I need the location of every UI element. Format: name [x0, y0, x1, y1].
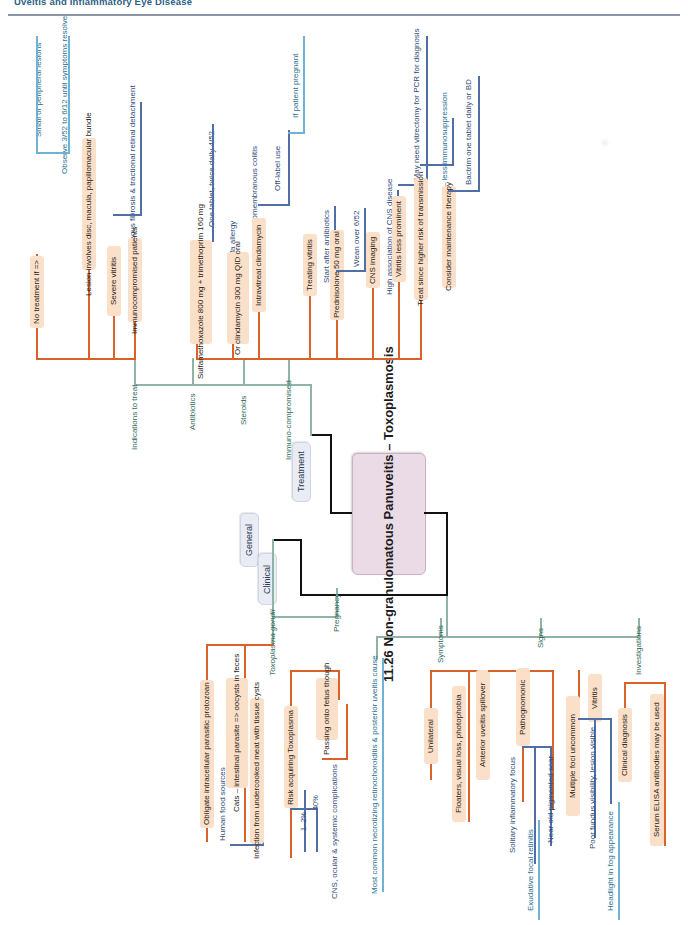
- leaf-cns-imaging[interactable]: CNS imaging: [366, 232, 380, 288]
- group-pregnancy[interactable]: Pregnancy: [328, 588, 346, 638]
- gondii-rail: [206, 644, 274, 646]
- leaf-headlight-in-fog[interactable]: Headlight in fog appearance: [604, 802, 618, 920]
- leaf-prednisolone[interactable]: Prednisolone 50 mg oral: [330, 230, 344, 320]
- group-antibiotics[interactable]: Antibiotics: [184, 391, 202, 433]
- leaf-bactrim[interactable]: Bactrim one tablet daily or BD: [462, 76, 476, 188]
- group-investigations[interactable]: Investigations: [630, 620, 648, 682]
- leaf-off-label-use[interactable]: Off-label use: [271, 132, 285, 204]
- central-node[interactable]: 11.26 Non-granulomatous Panuveitis – Tox…: [352, 453, 426, 575]
- leaf-immunocompromised-patients[interactable]: Immunocompromised patients: [128, 238, 142, 322]
- leaf-risk-acquiring-toxoplasma[interactable]: Risk acquiring Toxoplasma: [284, 706, 298, 808]
- antibiotics-blue-stem: [212, 124, 214, 242]
- intravitreal-stem-1: [288, 130, 290, 206]
- treatment-spine: [310, 384, 312, 436]
- trunk-general-stub: [300, 539, 302, 595]
- severe-vitritis-rail: [113, 214, 140, 216]
- group-immunocompromised[interactable]: Immuno-compromised: [280, 391, 298, 449]
- exudative-underline: [538, 820, 540, 920]
- investigations-rail: [624, 682, 664, 684]
- leaf-obligate-protozoan[interactable]: Obligate intracellular parasitic protozo…: [200, 680, 214, 828]
- intro-underline: [382, 658, 384, 892]
- leaf-severe-vitritis[interactable]: Severe vitritis: [107, 246, 121, 316]
- prednisolone-rail: [336, 270, 364, 272]
- fetus-stem: [346, 704, 348, 760]
- branch-treatment[interactable]: Treatment: [292, 442, 311, 502]
- intravitreal-rail: [258, 204, 288, 206]
- group-signs[interactable]: Signs: [532, 620, 550, 656]
- leaf-observe-until-resolve[interactable]: Observe 3/52 to 6/12 until symptoms reso…: [54, 36, 76, 154]
- leaf-pathognomonic[interactable]: Pathognomonic: [516, 668, 530, 746]
- indications-blue-rail: [36, 152, 68, 154]
- leaf-unilateral[interactable]: Unilateral: [424, 708, 438, 764]
- leaf-intravitreal-clindamycin[interactable]: Intravitreal clindamycin: [252, 218, 266, 312]
- leaf-consider-maintenance[interactable]: Consider maintenance therapy: [442, 186, 456, 288]
- trunk-up: [330, 434, 332, 514]
- leaf-cats-oocysts[interactable]: Cats – intestinal parasite => oocysts in…: [226, 678, 248, 788]
- indications-blue-stem-a: [36, 36, 38, 154]
- leaf-vitritis[interactable]: Vitritis: [588, 674, 602, 722]
- stem-indications: [134, 358, 136, 386]
- mindmap-page: Uveitis and Inflammatory Eye Disease 11.…: [0, 0, 688, 925]
- trunk-down-arm: [300, 594, 448, 596]
- investigations-stem-2: [664, 682, 666, 846]
- leaf-near-old-pigmented-scar[interactable]: Near old pigmented scar: [544, 746, 558, 852]
- leaf-no-treatment-if[interactable]: No treatment if =>: [30, 256, 44, 328]
- fetus-rail: [322, 758, 346, 760]
- mindmap-canvas: 11.26 Non-granulomatous Panuveitis – Tox…: [0, 18, 688, 925]
- headlight-underline: [618, 802, 620, 920]
- leaf-treating-vitritis[interactable]: Treating vitritis: [303, 234, 317, 296]
- trunk-left: [330, 512, 352, 514]
- indications-blue-stem-b: [68, 36, 70, 154]
- leaf-passing-onto-fetus[interactable]: Passing onto fetus though: [316, 678, 338, 740]
- leaf-cns-ocular-systemic[interactable]: CNS, ocular & systemic complications: [328, 770, 342, 894]
- leaf-clinical-diagnosis[interactable]: Clinical diagnosis: [618, 708, 632, 782]
- immuno-rail: [292, 358, 420, 360]
- symptoms-rail: [430, 670, 482, 672]
- bactrim-rail: [448, 190, 478, 192]
- leaf-solitary-inflammatory-focus[interactable]: Solitary inflammatory focus: [506, 748, 520, 862]
- leaf-may-need-vitrectomy[interactable]: => May need vitrectomy for PCR for diagn…: [410, 36, 424, 184]
- leaf-wean-over[interactable]: Wean over 6/52: [350, 208, 364, 270]
- pregnancy-stem-2: [338, 670, 340, 700]
- leaf-undercooked-meat[interactable]: Infection from undercooked meat with tis…: [250, 698, 264, 844]
- group-steroids[interactable]: Steroids: [235, 391, 253, 429]
- leaf-floaters-visual-loss[interactable]: Floaters, visual loss, photophobia: [452, 686, 466, 822]
- leaf-treat-higher-risk[interactable]: Treat since higher risk of transmission: [414, 178, 428, 300]
- header-rule: [8, 14, 680, 16]
- group-indications-to-treat[interactable]: Indications to treat: [126, 391, 144, 443]
- decorative-sheen: [600, 138, 610, 148]
- leaf-most-common-cause[interactable]: Most common necrotizing retinochoroiditi…: [368, 658, 382, 892]
- trunk-right: [424, 512, 446, 514]
- leaf-if-patient-pregnant[interactable]: If patient pregnant: [289, 36, 303, 136]
- leaf-vitritis-less-prominent[interactable]: Vitritis less prominent: [392, 196, 406, 282]
- running-header: Uveitis and Inflammatory Eye Disease: [14, 0, 192, 7]
- leaf-exudative-focal-retinitis[interactable]: Exudative focal retinitis: [524, 820, 538, 920]
- bactrim-stem: [478, 76, 480, 192]
- leaf-anterior-uveitis-spillover[interactable]: Anterior uveitis spillover: [476, 670, 490, 780]
- leaf-poor-fundus-visibility[interactable]: Poor fundus visibility, lesion visible: [586, 718, 600, 858]
- trunk-general-arm: [272, 539, 302, 541]
- leaf-multiple-foci-uncommon[interactable]: Multiple foci uncommon: [566, 696, 580, 816]
- group-symptoms[interactable]: Symptoms: [432, 618, 450, 670]
- leaf-small-peripheral-lesions[interactable]: Small or peripheral lesions: [32, 36, 46, 144]
- indications-rail: [36, 358, 136, 360]
- leaf-lesion-involves[interactable]: Lesion involves disc, macula, papillomac…: [82, 138, 96, 270]
- branch-clinical[interactable]: Clinical: [258, 553, 277, 605]
- leaf-40-percent[interactable]: 40%: [310, 788, 322, 818]
- vitritis-stem-a: [610, 718, 612, 804]
- trunk-down: [446, 512, 448, 596]
- pregnant-stem: [303, 36, 305, 134]
- trunk-up-arm: [310, 434, 332, 436]
- symptoms-stem-2: [468, 670, 470, 822]
- stem-antibiotics: [192, 358, 194, 386]
- stem-steroids: [243, 358, 245, 386]
- leaf-serum-elisa[interactable]: Serum ELISA antibodies may be used: [650, 694, 664, 846]
- leaf-or-clindamycin[interactable]: Or clindamycin 300 mg QID oral: [227, 252, 249, 344]
- leaf-1-2-percent[interactable]: 1–2%: [298, 806, 310, 838]
- group-toxoplasma-gondii[interactable]: Toxoplasma gondii: [264, 614, 282, 672]
- pregnant-rail: [288, 132, 304, 134]
- leaf-sulfamethoxazole[interactable]: Sulfamethoxazole 800 mg + trimethoprim 1…: [190, 240, 212, 344]
- severe-vitritis-stem: [140, 102, 142, 216]
- branch-general[interactable]: General: [240, 513, 259, 567]
- general-spine: [272, 539, 274, 617]
